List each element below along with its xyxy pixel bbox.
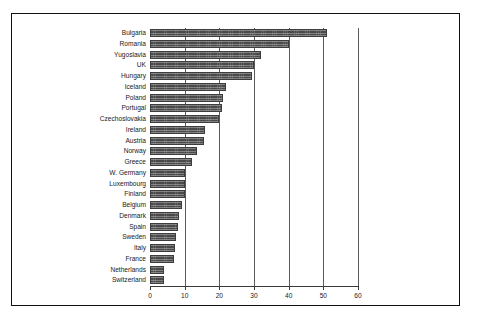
bar-row bbox=[150, 125, 358, 136]
bar-row bbox=[150, 114, 358, 125]
category-label: Norway bbox=[26, 146, 146, 157]
category-label: France bbox=[26, 254, 146, 265]
bar-row bbox=[150, 103, 358, 114]
chart-figure: 0102030405060BulgariaRomaniaYugoslaviaUK… bbox=[0, 0, 478, 325]
x-axis-tick-20 bbox=[219, 286, 220, 290]
category-label: Luxembourg bbox=[26, 179, 146, 190]
x-axis-tick-label: 50 bbox=[311, 292, 335, 299]
category-label: Hungary bbox=[26, 71, 146, 82]
category-label: Poland bbox=[26, 93, 146, 104]
bar-row bbox=[150, 50, 358, 61]
bar-row bbox=[150, 39, 358, 50]
category-label: Greece bbox=[26, 157, 146, 168]
category-label: Spain bbox=[26, 222, 146, 233]
category-label: Bulgaria bbox=[26, 28, 146, 39]
bar bbox=[150, 72, 252, 80]
bar bbox=[150, 266, 164, 274]
category-label: W. Germany bbox=[26, 168, 146, 179]
x-axis-tick-30 bbox=[254, 286, 255, 290]
bar-row bbox=[150, 200, 358, 211]
bar-row bbox=[150, 275, 358, 286]
bar bbox=[150, 190, 185, 198]
x-axis-tick-label: 60 bbox=[346, 292, 370, 299]
category-label: Austria bbox=[26, 136, 146, 147]
category-label: Finland bbox=[26, 189, 146, 200]
bar-row bbox=[150, 71, 358, 82]
bar-row bbox=[150, 179, 358, 190]
category-label: Ireland bbox=[26, 125, 146, 136]
category-label: Sweden bbox=[26, 232, 146, 243]
bar-row bbox=[150, 265, 358, 276]
bar-row bbox=[150, 189, 358, 200]
category-label: Switzerland bbox=[26, 275, 146, 286]
bar-row bbox=[150, 243, 358, 254]
bar bbox=[150, 180, 185, 188]
bar bbox=[150, 51, 261, 59]
bar bbox=[150, 276, 164, 284]
bar bbox=[150, 233, 176, 241]
bar bbox=[150, 40, 289, 48]
bar-row bbox=[150, 60, 358, 71]
bar-row bbox=[150, 93, 358, 104]
bar bbox=[150, 223, 178, 231]
bar-row bbox=[150, 28, 358, 39]
category-label: UK bbox=[26, 60, 146, 71]
bar-row bbox=[150, 136, 358, 147]
bar bbox=[150, 61, 254, 69]
bar-row bbox=[150, 157, 358, 168]
bar bbox=[150, 169, 185, 177]
bar bbox=[150, 244, 175, 252]
bar bbox=[150, 126, 205, 134]
x-axis-tick-label: 30 bbox=[242, 292, 266, 299]
bar-row bbox=[150, 222, 358, 233]
bar-row bbox=[150, 82, 358, 93]
x-axis-tick-50 bbox=[323, 286, 324, 290]
x-axis-tick-0 bbox=[150, 286, 151, 290]
gridline-60 bbox=[358, 28, 359, 286]
bar bbox=[150, 83, 226, 91]
category-label: Netherlands bbox=[26, 265, 146, 276]
x-axis-tick-label: 10 bbox=[173, 292, 197, 299]
category-label: Romania bbox=[26, 39, 146, 50]
bar bbox=[150, 212, 179, 220]
bar-row bbox=[150, 168, 358, 179]
bar bbox=[150, 115, 219, 123]
category-label: Yugoslavia bbox=[26, 50, 146, 61]
bar bbox=[150, 201, 182, 209]
x-axis-tick-label: 40 bbox=[277, 292, 301, 299]
x-axis-tick-40 bbox=[289, 286, 290, 290]
bar bbox=[150, 94, 223, 102]
bar bbox=[150, 29, 327, 37]
x-axis-tick-label: 0 bbox=[138, 292, 162, 299]
category-label: Portugal bbox=[26, 103, 146, 114]
bar bbox=[150, 147, 197, 155]
bar-row bbox=[150, 254, 358, 265]
bar bbox=[150, 104, 222, 112]
x-axis-tick-10 bbox=[185, 286, 186, 290]
bar bbox=[150, 137, 204, 145]
x-axis-tick-label: 20 bbox=[207, 292, 231, 299]
category-label: Iceland bbox=[26, 82, 146, 93]
bar-row bbox=[150, 146, 358, 157]
bar bbox=[150, 255, 174, 263]
category-label: Belgium bbox=[26, 200, 146, 211]
bar-row bbox=[150, 211, 358, 222]
x-axis-tick-60 bbox=[358, 286, 359, 290]
bar-row bbox=[150, 232, 358, 243]
category-label: Italy bbox=[26, 243, 146, 254]
bar bbox=[150, 158, 192, 166]
category-label: Denmark bbox=[26, 211, 146, 222]
category-label: Czechoslovakia bbox=[26, 114, 146, 125]
